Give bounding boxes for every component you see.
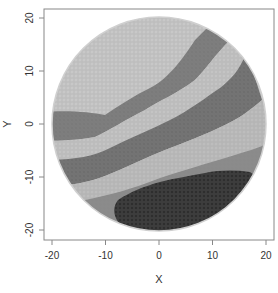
scatter-markers-light <box>42 12 278 252</box>
x-tick-label: 0 <box>156 250 162 261</box>
data-disk <box>40 10 278 252</box>
x-axis-title: X <box>155 273 163 285</box>
x-tick-label: -10 <box>98 250 113 261</box>
y-axis <box>39 18 44 230</box>
x-tick-label: 20 <box>260 250 272 261</box>
x-tick-label: -20 <box>45 250 60 261</box>
y-tick-label: -20 <box>24 222 35 237</box>
y-tick-label: 20 <box>24 12 35 24</box>
y-tick-label: 10 <box>24 65 35 77</box>
y-tick-label: -10 <box>24 169 35 184</box>
x-tick-label: 10 <box>207 250 219 261</box>
x-tick-labels: -20 -10 0 10 20 <box>45 250 272 261</box>
y-tick-labels: -20 -10 0 10 20 <box>24 12 35 237</box>
scatter-plot: -20 -10 0 10 20 X -20 -10 0 10 20 Y <box>0 0 278 293</box>
y-axis-title: Y <box>1 120 13 128</box>
y-tick-label: 0 <box>24 121 35 127</box>
x-axis <box>52 240 266 245</box>
